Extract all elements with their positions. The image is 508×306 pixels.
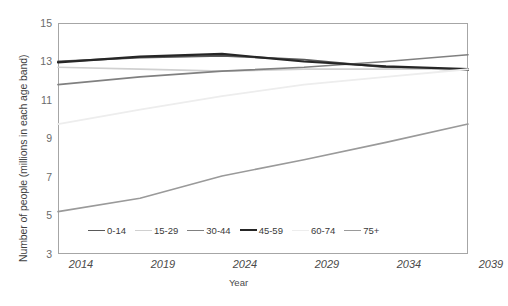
x-tick-label: 2019 [140,258,186,270]
legend-label: 45-59 [259,225,283,236]
x-tick-label: 2024 [222,258,268,270]
legend-item-45-59[interactable]: 45-59 [240,225,283,236]
legend-label: 30-44 [206,225,230,236]
y-axis-ticks: 15 13 11 9 7 5 3 [22,0,52,270]
y-tick-label: 15 [26,18,52,28]
y-tick-label: 5 [26,210,52,220]
legend-swatch-icon [187,230,204,231]
legend-item-0-14[interactable]: 0-14 [88,225,126,236]
legend-item-75+[interactable]: 75+ [344,225,379,236]
y-tick-label: 13 [26,56,52,66]
legend-swatch-icon [344,230,361,231]
x-axis-title: Year [0,277,477,288]
legend-item-15-29[interactable]: 15-29 [135,225,178,236]
plot-area [58,23,468,254]
y-tick-label: 7 [26,172,52,182]
legend-item-30-44[interactable]: 30-44 [187,225,230,236]
legend-item-60-74[interactable]: 60-74 [292,225,335,236]
x-tick-label: 2034 [386,258,432,270]
x-tick-label: 2029 [304,258,350,270]
legend-label: 15-29 [154,225,178,236]
y-tick-label: 3 [26,249,52,259]
y-tick-label: 11 [26,95,52,105]
y-tick-label: 9 [26,133,52,143]
y-axis-title-wrap: Number of people (millions in each age b… [0,0,22,270]
legend-swatch-icon [88,230,105,231]
chart-legend: 0-1415-2930-4445-5960-7475+ [88,222,428,238]
legend-label: 0-14 [107,225,126,236]
legend-swatch-icon [292,230,309,231]
legend-swatch-icon [135,230,152,231]
x-tick-label: 2039 [468,258,508,270]
x-axis-ticks: 2014 2019 2024 2029 2034 2039 [58,258,468,278]
x-tick-label: 2014 [58,258,104,270]
legend-label: 60-74 [311,225,335,236]
legend-label: 75+ [363,225,379,236]
legend-swatch-icon [240,229,257,231]
